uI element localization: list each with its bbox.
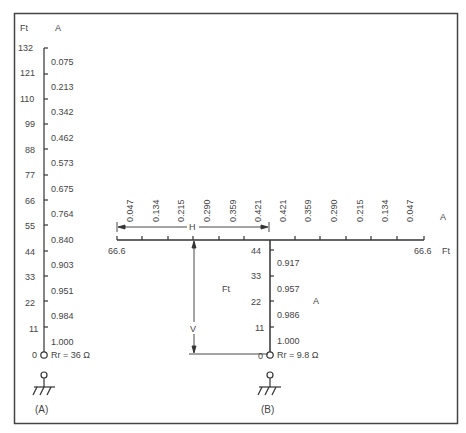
tophat-right-end-label: 66.6 <box>414 246 432 256</box>
mast-b-height-label: 11 <box>255 323 264 333</box>
current-label: 0.903 <box>51 260 74 270</box>
height-label: 11 <box>29 324 38 334</box>
height-label: 44 <box>25 247 35 257</box>
mast-b-current-label: 1.000 <box>277 336 300 346</box>
current-label: 0.764 <box>51 209 74 219</box>
mast-b-height-label: 44 <box>251 246 261 256</box>
tophat-left-end-label: 66.6 <box>108 246 126 256</box>
current-label: 1.000 <box>51 337 74 347</box>
height-label: 33 <box>25 272 35 282</box>
height-label: 22 <box>25 298 35 308</box>
mast-b-current-label: 0.957 <box>277 284 300 294</box>
dimension-h-label: H <box>189 222 196 232</box>
tophat-current-label: 0.359 <box>303 199 313 222</box>
feedpoint-a-icon <box>41 352 47 358</box>
mast-b-height-label: 22 <box>251 297 261 307</box>
current-label: 0.675 <box>51 184 74 194</box>
panel-a-current-unit: A <box>55 23 61 33</box>
height-label: 55 <box>25 221 35 231</box>
tophat-current-label: 0.290 <box>202 199 212 222</box>
panel-a-height-unit: Ft <box>20 23 28 33</box>
tophat-current-unit: A <box>440 212 446 222</box>
feedpoint-b-icon <box>267 352 273 358</box>
height-label: 99 <box>25 119 35 129</box>
tophat-current-label: 0.047 <box>405 199 415 222</box>
mast-b-current-unit: A <box>313 296 319 306</box>
tophat-current-label: 0.421 <box>278 199 288 222</box>
tophat-current-label: 0.359 <box>228 199 238 222</box>
tophat-current-label: 0.134 <box>151 199 161 222</box>
height-label: 110 <box>20 94 34 104</box>
tophat-current-label: 0.047 <box>125 199 135 222</box>
current-label: 0.573 <box>51 158 74 168</box>
tophat-current-label: 0.421 <box>253 199 263 222</box>
current-label: 0.840 <box>51 235 74 245</box>
mast-b-height-unit: Ft <box>222 284 230 294</box>
panel-b-radiation-resistance: Rr = 9.8 Ω <box>277 350 319 360</box>
panel-a-caption: (A) <box>35 405 48 415</box>
height-label: 132 <box>18 43 33 53</box>
mast-b-current-label: 0.986 <box>277 310 300 320</box>
tophat-length-unit: Ft <box>442 246 450 256</box>
height-label: 77 <box>25 170 35 180</box>
mast-b-height-label: 0 <box>258 351 263 361</box>
mast-b-height-label: 33 <box>251 271 261 281</box>
panel-b-caption: (B) <box>261 405 274 415</box>
tophat-current-label: 0.290 <box>329 199 339 222</box>
current-label: 0.075 <box>51 57 74 67</box>
current-label: 0.984 <box>51 311 74 321</box>
height-label: 121 <box>20 68 35 78</box>
height-label: 88 <box>25 145 35 155</box>
height-label: 66 <box>25 196 35 206</box>
tophat-current-label: 0.215 <box>176 199 186 222</box>
mast-b-current-label: 0.917 <box>277 258 300 268</box>
current-label: 0.213 <box>51 82 74 92</box>
panel-a-radiation-resistance: Rr = 36 Ω <box>51 350 90 360</box>
current-label: 0.462 <box>51 133 74 143</box>
height-label: 0 <box>32 350 37 360</box>
current-label: 0.951 <box>51 286 74 296</box>
tophat-current-label: 0.215 <box>355 199 365 222</box>
current-label: 0.342 <box>51 107 74 117</box>
tophat-current-label: 0.134 <box>380 199 390 222</box>
dimension-v-label: V <box>190 324 196 334</box>
